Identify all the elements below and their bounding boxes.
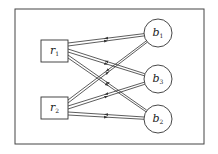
bipartite-diagram: r1r2b1b3b2 xyxy=(0,0,218,154)
edge-r1-b2-in xyxy=(68,55,147,110)
edge-r1-b1-in xyxy=(68,34,144,43)
edge-r1-b3-out xyxy=(68,52,145,76)
diagram-frame xyxy=(15,9,204,144)
edge-r2-b2-in xyxy=(68,112,144,117)
edge-r1-b1-out xyxy=(68,36,144,46)
nodes-group: r1r2b1b3b2 xyxy=(41,19,172,133)
edges-group xyxy=(68,34,147,120)
edge-r2-b2-out xyxy=(68,115,144,119)
edge-r2-b3-out xyxy=(68,84,145,109)
